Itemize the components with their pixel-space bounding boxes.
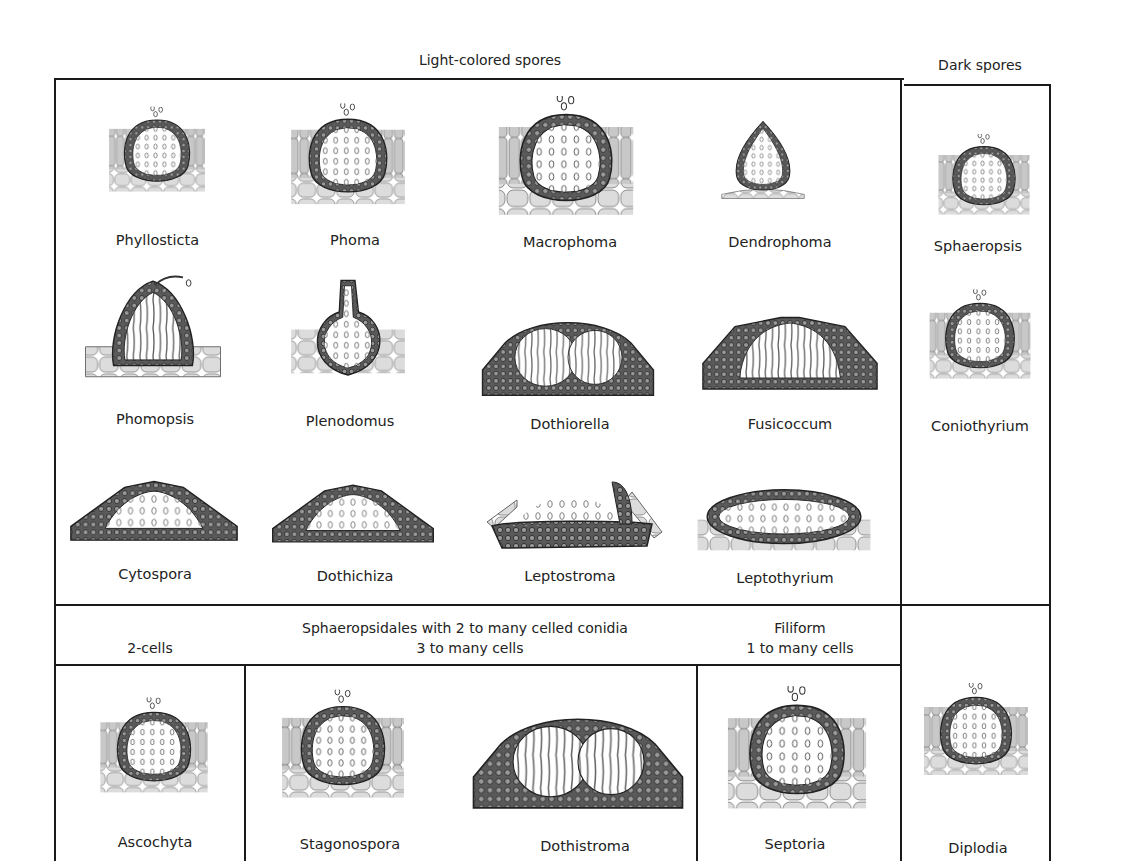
header-one-to-many-cells: 1 to many cells — [720, 640, 880, 656]
illustration-leptothyrium — [688, 466, 880, 554]
illustration-dothistroma — [468, 684, 688, 826]
header-multicell-title: Sphaeropsidales with 2 to many celled co… — [240, 620, 690, 636]
table-border-top — [54, 78, 904, 80]
illustration-diplodia — [912, 650, 1040, 812]
header-dark-spores: Dark spores — [920, 57, 1040, 73]
label-plenodomus: Plenodomus — [290, 413, 410, 429]
divider-light-dark — [900, 78, 902, 861]
divider-filiform — [696, 664, 698, 861]
divider-2cells — [244, 664, 246, 861]
header-two-cells: 2-cells — [90, 640, 210, 656]
illustration-dothichiza — [268, 462, 438, 548]
table-border-left — [54, 78, 56, 861]
illustration-phyllosticta — [98, 92, 216, 210]
label-leptostroma: Leptostroma — [510, 568, 630, 584]
illustration-coniothyrium — [918, 268, 1042, 404]
illustration-ascochyta — [88, 678, 220, 816]
divider-horizontal-sub — [54, 664, 901, 666]
label-phoma: Phoma — [300, 232, 410, 248]
label-cytospora: Cytospora — [95, 566, 215, 582]
divider-horizontal-main — [54, 604, 1051, 606]
illustration-dendrophoma — [708, 96, 818, 224]
illustration-phoma — [278, 92, 418, 220]
label-dendrophoma: Dendrophoma — [715, 234, 845, 250]
label-fusicoccum: Fusicoccum — [730, 416, 850, 432]
label-ascochyta: Ascochyta — [95, 834, 215, 850]
label-sphaeropsis: Sphaeropsis — [918, 238, 1038, 254]
illustration-sphaeropsis — [928, 118, 1040, 234]
label-dothichiza: Dothichiza — [295, 568, 415, 584]
label-dothiorella: Dothiorella — [510, 416, 630, 432]
illustration-plenodomus — [278, 262, 418, 397]
illustration-fusicoccum — [694, 290, 886, 400]
illustration-cytospora — [66, 458, 242, 546]
illustration-macrophoma — [482, 96, 650, 220]
header-filiform: Filiform — [720, 620, 880, 636]
illustration-dothiorella — [462, 298, 674, 406]
illustration-septoria — [712, 680, 882, 820]
illustration-stagonospora — [268, 676, 418, 816]
label-phomopsis: Phomopsis — [95, 411, 215, 427]
label-dothistroma: Dothistroma — [520, 838, 650, 854]
label-leptothyrium: Leptothyrium — [720, 570, 850, 586]
table-border-right — [1049, 84, 1051, 861]
label-macrophoma: Macrophoma — [510, 234, 630, 250]
illustration-leptostroma — [472, 462, 672, 552]
label-septoria: Septoria — [735, 836, 855, 852]
header-three-to-many-cells: 3 to many cells — [340, 640, 600, 656]
table-border-top-right — [904, 84, 1051, 86]
illustration-phomopsis — [78, 262, 228, 394]
header-light-colored-spores: Light-colored spores — [330, 52, 650, 68]
label-phyllosticta: Phyllosticta — [95, 232, 220, 248]
label-diplodia: Diplodia — [918, 840, 1038, 856]
label-coniothyrium: Coniothyrium — [915, 418, 1045, 434]
label-stagonospora: Stagonospora — [285, 836, 415, 852]
